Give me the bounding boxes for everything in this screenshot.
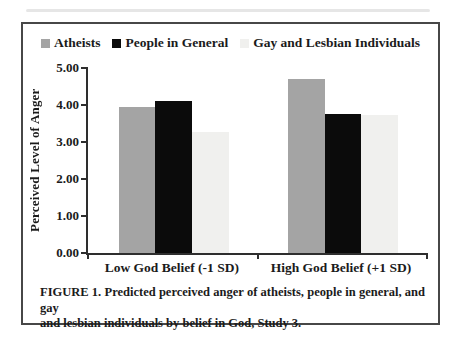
legend-item-people-in-general: People in General <box>112 35 228 51</box>
legend-item-gay-and-lesbian: Gay and Lesbian Individuals <box>240 35 420 51</box>
legend-item-atheists: Atheists <box>41 35 101 51</box>
y-tick-mark <box>81 178 88 180</box>
y-tick-mark <box>81 67 88 69</box>
y-axis-title: Perceived Level of Anger <box>27 68 47 253</box>
x-tick-mark <box>426 253 428 259</box>
legend-swatch-gay-and-lesbian <box>240 39 249 48</box>
legend-swatch-people-in-general <box>112 39 121 48</box>
legend-label-people-in-general: People in General <box>125 35 228 51</box>
x-tick-mark <box>87 253 89 259</box>
y-tick-mark <box>81 141 88 143</box>
legend-swatch-atheists <box>41 39 50 48</box>
x-category-label-high: High God Belief (+1 SD) <box>271 260 411 276</box>
bar-gay-and-lesbian-individuals-high-god-belief <box>361 115 398 253</box>
bar-atheists-low-god-belief <box>119 107 156 253</box>
legend-label-gay-and-lesbian: Gay and Lesbian Individuals <box>253 35 420 51</box>
y-tick-label: 0.00 <box>35 246 79 260</box>
y-tick-label: 1.00 <box>35 209 79 223</box>
figure-frame: Atheists People in General Gay and Lesbi… <box>21 22 440 325</box>
chart-legend: Atheists People in General Gay and Lesbi… <box>23 35 438 51</box>
x-axis-labels: Low God Belief (-1 SD) High God Belief (… <box>86 260 425 280</box>
figure-caption: FIGURE 1. Predicted perceived anger of a… <box>40 285 425 332</box>
figure-canvas: Atheists People in General Gay and Lesbi… <box>0 0 463 344</box>
plot-area: 5.004.003.002.001.000.00 <box>86 68 427 255</box>
y-tick-label: 5.00 <box>35 61 79 75</box>
y-tick-mark <box>81 104 88 106</box>
y-tick-label: 2.00 <box>35 172 79 186</box>
x-category-label-low: Low God Belief (-1 SD) <box>105 260 239 276</box>
bar-atheists-high-god-belief <box>288 79 325 253</box>
caption-line-1: FIGURE 1. Predicted perceived anger of a… <box>40 285 425 316</box>
scan-artifact <box>26 9 430 12</box>
bar-people-in-general-low-god-belief <box>155 101 192 253</box>
y-tick-label: 3.00 <box>35 135 79 149</box>
y-tick-mark <box>81 215 88 217</box>
bar-people-in-general-high-god-belief <box>325 114 362 253</box>
y-tick-label: 4.00 <box>35 98 79 112</box>
bar-gay-and-lesbian-individuals-low-god-belief <box>192 132 229 253</box>
x-tick-mark <box>257 253 259 259</box>
legend-label-atheists: Atheists <box>54 35 101 51</box>
caption-line-2: and lesbian individuals by belief in God… <box>40 316 425 332</box>
